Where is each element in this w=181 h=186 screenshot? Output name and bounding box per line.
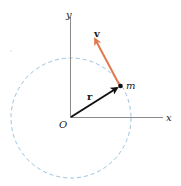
origin-label: O <box>59 119 67 130</box>
circular-motion-diagram: y x O r v m <box>0 0 181 186</box>
x-axis-label: x <box>166 112 172 123</box>
y-axis-label: y <box>65 9 72 20</box>
particle-label: m <box>126 80 135 91</box>
position-vector-label: r <box>87 91 93 102</box>
particle-dot <box>118 84 123 89</box>
velocity-vector-arrow <box>95 39 120 86</box>
position-vector-arrow <box>71 88 117 117</box>
stray-dot <box>10 50 11 51</box>
velocity-vector-label: v <box>93 28 101 39</box>
